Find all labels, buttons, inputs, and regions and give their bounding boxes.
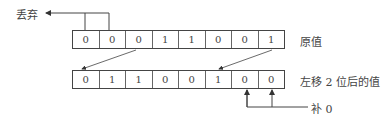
shift-arrow-left: [82, 50, 136, 69]
bit-cell: 0: [232, 31, 259, 48]
bit-cell: 0: [73, 71, 100, 88]
shifted-bits-row: 0 1 1 0 0 1 0 0: [72, 70, 285, 89]
bit-cell: 1: [100, 71, 127, 88]
bit-cell: 0: [259, 71, 285, 88]
pad-label: 补 0: [311, 100, 333, 116]
bit-cell: 0: [126, 31, 153, 48]
bit-cell: 0: [73, 31, 100, 48]
discard-bracket: [85, 13, 109, 30]
bit-cell: 0: [100, 31, 127, 48]
original-label: 原值: [300, 33, 322, 49]
shift-arrow-right: [219, 50, 272, 69]
bit-cell: 1: [126, 71, 153, 88]
original-bits-row: 0 0 0 1 1 0 0 1: [72, 30, 285, 49]
bit-cell: 1: [206, 71, 233, 88]
bit-cell: 1: [179, 31, 206, 48]
bit-cell: 0: [206, 31, 233, 48]
bit-cell: 0: [179, 71, 206, 88]
bit-cell: 1: [153, 31, 180, 48]
bit-cell: 1: [259, 31, 285, 48]
discard-label: 丢弃: [16, 6, 38, 22]
bit-cell: 0: [232, 71, 259, 88]
bit-cell: 0: [153, 71, 180, 88]
shifted-label: 左移 2 位后的值: [300, 73, 380, 89]
